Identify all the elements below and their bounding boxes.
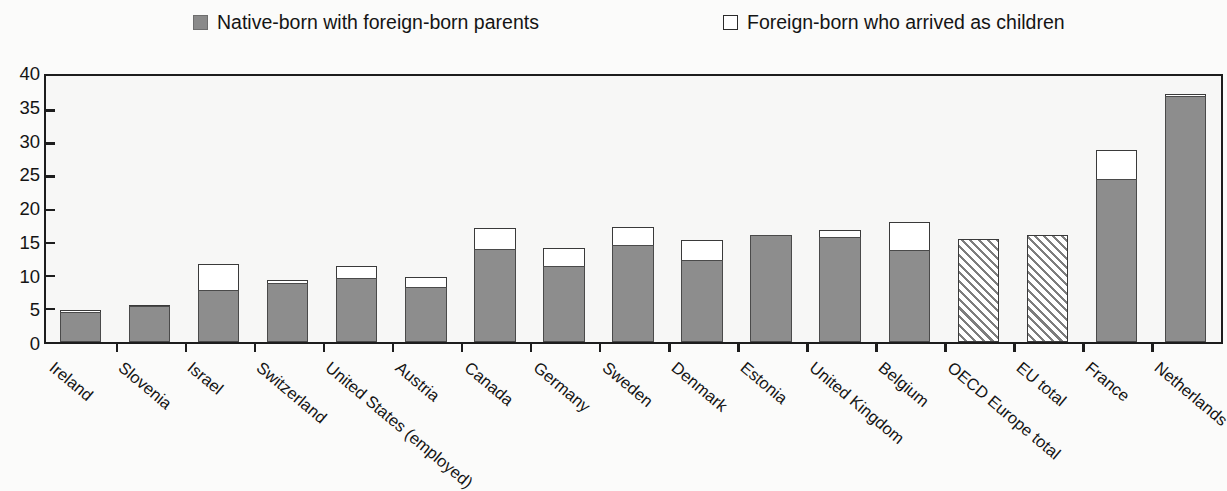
filled-square-icon — [193, 15, 208, 30]
x-axis-label-text: Netherlands — [1151, 358, 1227, 430]
y-axis-tick-25 — [46, 175, 55, 178]
x-axis-label-text: Austria — [391, 358, 443, 406]
bar-total[interactable] — [958, 239, 999, 342]
x-axis-label: EU total — [1013, 358, 1070, 410]
bar-native-segment[interactable] — [198, 290, 239, 342]
bar-native-segment[interactable] — [612, 245, 653, 342]
x-axis-label-text: France — [1082, 358, 1134, 406]
x-axis-labels: IrelandSloveniaIsraelSwitzerlandUnited S… — [0, 344, 1227, 491]
y-tick-label-15: 15 — [0, 234, 40, 253]
plot-area — [44, 74, 1223, 344]
bar-group[interactable] — [405, 77, 446, 342]
x-axis-label: Slovenia — [115, 358, 176, 413]
y-tick-label-40: 40 — [0, 65, 40, 84]
y-axis-tick-10 — [46, 275, 55, 278]
y-tick-label-30: 30 — [0, 133, 40, 152]
x-axis-label: Israel — [184, 358, 227, 398]
bar-native-segment[interactable] — [60, 312, 101, 342]
bar-native-segment[interactable] — [267, 283, 308, 342]
bar-native-segment[interactable] — [1096, 179, 1137, 342]
bar-group[interactable] — [267, 77, 308, 342]
x-axis-label-text: Sweden — [598, 358, 656, 411]
bar-group[interactable] — [819, 77, 860, 342]
x-axis-label: Sweden — [598, 358, 656, 411]
bar-group[interactable] — [129, 77, 170, 342]
bar-native-segment[interactable] — [543, 266, 584, 342]
bar-native-segment[interactable] — [336, 278, 377, 342]
bar-group[interactable] — [1096, 77, 1137, 342]
y-tick-label-20: 20 — [0, 200, 40, 219]
bar-native-segment[interactable] — [889, 250, 930, 342]
y-axis-tick-20 — [46, 209, 55, 212]
chart-root: Native-born with foreign-born parents Fo… — [0, 0, 1227, 491]
hollow-square-icon — [723, 15, 738, 30]
bar-group[interactable] — [336, 77, 377, 342]
bar-native-segment[interactable] — [474, 249, 515, 342]
legend-label-foreign-born: Foreign-born who arrived as children — [747, 13, 1065, 33]
x-axis-label: France — [1082, 358, 1134, 406]
x-axis-label-text: EU total — [1013, 358, 1070, 410]
x-axis-label: Ireland — [46, 358, 97, 405]
bar-group[interactable] — [1027, 77, 1068, 342]
y-axis-labels: 0 5 10 15 20 25 30 35 40 — [0, 74, 40, 344]
legend-item-native-born: Native-born with foreign-born parents — [193, 13, 539, 33]
bar-native-segment[interactable] — [681, 260, 722, 342]
bar-native-segment[interactable] — [405, 287, 446, 342]
y-axis-tick-30 — [46, 142, 55, 145]
x-axis-label-text: Germany — [529, 358, 593, 416]
legend-item-foreign-born: Foreign-born who arrived as children — [723, 13, 1065, 33]
x-axis-label-text: Switzerland — [253, 358, 331, 427]
bar-group[interactable] — [198, 77, 239, 342]
bar-group[interactable] — [60, 77, 101, 342]
x-axis-label: Switzerland — [253, 358, 331, 427]
y-tick-label-10: 10 — [0, 268, 40, 287]
y-axis-tick-5 — [46, 308, 55, 311]
legend-label-native-born: Native-born with foreign-born parents — [217, 13, 539, 33]
y-axis-tick-35 — [46, 109, 55, 112]
x-axis-label-text: OECD Europe total — [944, 358, 1064, 463]
bar-group[interactable] — [889, 77, 930, 342]
y-tick-label-5: 5 — [0, 301, 40, 320]
y-tick-label-25: 25 — [0, 166, 40, 185]
bar-group[interactable] — [474, 77, 515, 342]
x-axis-label: Estonia — [737, 358, 791, 408]
y-axis-tick-15 — [46, 242, 55, 245]
x-axis-label-text: Ireland — [46, 358, 97, 405]
bar-group[interactable] — [543, 77, 584, 342]
x-axis-label-text: Estonia — [737, 358, 791, 408]
x-axis-label: Netherlands — [1151, 358, 1227, 430]
bar-native-segment[interactable] — [750, 235, 791, 342]
bar-total[interactable] — [1027, 235, 1068, 342]
bar-group[interactable] — [681, 77, 722, 342]
x-axis-label: Belgium — [875, 358, 933, 411]
x-axis-label: Austria — [391, 358, 443, 406]
x-axis-label: Canada — [460, 358, 516, 410]
x-axis-label: Denmark — [668, 358, 731, 416]
bar-native-segment[interactable] — [1165, 96, 1206, 342]
x-axis-label: OECD Europe total — [944, 358, 1064, 463]
bar-native-segment[interactable] — [819, 237, 860, 342]
bar-group[interactable] — [958, 77, 999, 342]
x-axis-label-text: Denmark — [668, 358, 731, 416]
x-axis-label: Germany — [529, 358, 593, 416]
bar-group[interactable] — [750, 77, 791, 342]
bar-group[interactable] — [612, 77, 653, 342]
x-axis-label-text: Belgium — [875, 358, 933, 411]
x-axis-label-text: Slovenia — [115, 358, 176, 413]
bar-native-segment[interactable] — [129, 306, 170, 342]
x-axis-label-text: Canada — [460, 358, 516, 410]
x-axis-label-text: Israel — [184, 358, 227, 398]
bar-group[interactable] — [1165, 77, 1206, 342]
chart-legend: Native-born with foreign-born parents Fo… — [0, 8, 1227, 46]
plot-inner — [46, 76, 1221, 342]
y-tick-label-35: 35 — [0, 99, 40, 118]
